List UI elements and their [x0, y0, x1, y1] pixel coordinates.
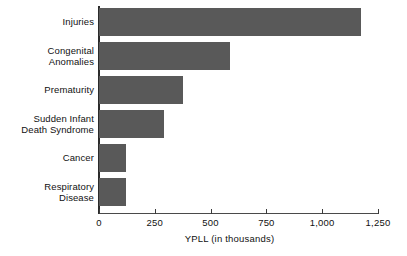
x-axis-tick-label: 1,000	[297, 217, 347, 228]
plot-area	[99, 8, 378, 213]
x-axis-tick	[211, 209, 212, 214]
x-axis-tick-label: 0	[74, 217, 124, 228]
category-label-sudden-infant-death-syndrome: Sudden Infant Death Syndrome	[0, 113, 94, 136]
category-label-cancer: Cancer	[0, 152, 94, 164]
bar-prematurity	[99, 76, 183, 104]
category-label-congenital-anomalies: Congenital Anomalies	[0, 45, 94, 68]
bar-row	[99, 8, 378, 36]
bar-cancer	[99, 144, 126, 172]
x-axis-tick	[322, 209, 323, 214]
x-axis-tick-label: 500	[186, 217, 236, 228]
category-label-respiratory-disease: Respiratory Disease	[0, 181, 94, 204]
bar-chart: Injuries Congenital Anomalies Prematurit…	[0, 0, 407, 256]
x-axis-tick	[99, 209, 100, 214]
x-axis-tick-label: 1,250	[353, 217, 403, 228]
x-axis-title-text: YPLL (in thousands)	[133, 233, 275, 244]
bar-congenital-anomalies	[99, 42, 230, 70]
bar-injuries	[99, 8, 361, 36]
bar-sudden-infant-death-syndrome	[99, 110, 164, 138]
bar-row	[99, 110, 378, 138]
bar-row	[99, 76, 378, 104]
x-axis-title: YPLL (in thousands)	[0, 233, 407, 244]
category-label-prematurity: Prematurity	[0, 84, 94, 96]
bar-row	[99, 178, 378, 206]
x-axis-tick-label: 250	[130, 217, 180, 228]
bar-respiratory-disease	[99, 178, 126, 206]
x-axis-tick	[266, 209, 267, 214]
bar-row	[99, 42, 378, 70]
category-label-injuries: Injuries	[0, 16, 94, 28]
x-axis-tick	[155, 209, 156, 214]
x-axis-tick	[378, 209, 379, 214]
bar-row	[99, 144, 378, 172]
x-axis-line	[99, 213, 378, 214]
x-axis-tick-label: 750	[241, 217, 291, 228]
